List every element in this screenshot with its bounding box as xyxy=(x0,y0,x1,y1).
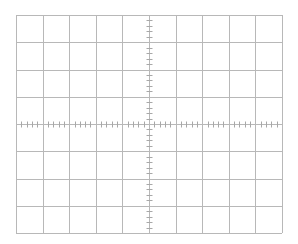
oscilloscope-graticule xyxy=(0,0,298,244)
